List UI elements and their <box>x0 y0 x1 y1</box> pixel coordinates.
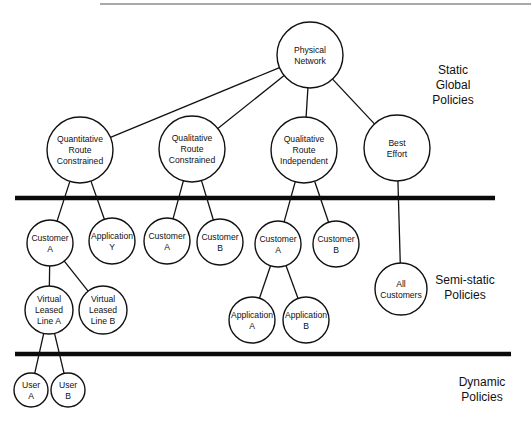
node-label: Line A <box>37 316 61 326</box>
node-label: A <box>47 244 53 254</box>
node-label: B <box>65 391 71 401</box>
edge-qrc-customer-a-to-virtual-leased-line-b <box>64 261 88 291</box>
node-label: B <box>303 321 309 331</box>
node-application-b: ApplicationB <box>283 297 329 343</box>
edge-qualitative-route-independent-to-qli-customer-b <box>315 181 329 222</box>
node-label: Virtual <box>91 294 115 304</box>
node-best-effort: BestEffort <box>364 115 430 181</box>
layer-label-dynamic: DynamicPolicies <box>459 375 506 404</box>
node-qrc-application-y: ApplicationY <box>89 218 135 264</box>
node-label: Customer <box>31 233 68 243</box>
node-user-b: UserB <box>51 373 85 407</box>
node-label: Effort <box>387 149 408 159</box>
node-label: A <box>249 321 255 331</box>
node-label: Application <box>91 231 133 241</box>
node-label: Route <box>181 144 204 154</box>
node-label: Application <box>285 310 327 320</box>
node-label: Route <box>69 145 92 155</box>
node-label: Network <box>294 56 326 66</box>
node-label: Qualitative <box>172 133 213 143</box>
node-label: Customer <box>317 234 354 244</box>
node-label: Leased <box>35 305 63 315</box>
node-qlc-customer-a: CustomerA <box>144 218 190 264</box>
policy-hierarchy-diagram: PhysicalNetworkQuantitativeRouteConstrai… <box>0 0 531 421</box>
node-label: Constrained <box>57 156 104 166</box>
node-label: A <box>275 245 281 255</box>
node-label: Physical <box>294 45 326 55</box>
node-label: Customers <box>380 290 422 300</box>
node-physical-network: PhysicalNetwork <box>277 22 343 88</box>
tree-nodes: PhysicalNetworkQuantitativeRouteConstrai… <box>14 22 430 407</box>
node-label: Leased <box>89 305 117 315</box>
node-label: Line B <box>91 316 116 326</box>
layer-label-line: Policies <box>444 288 485 302</box>
node-virtual-leased-line-a: VirtualLeasedLine A <box>25 286 73 334</box>
node-quantitative-route-constrained: QuantitativeRouteConstrained <box>47 117 113 183</box>
edge-physical-network-to-best-effort <box>333 79 375 124</box>
edge-qli-customer-a-to-application-a <box>259 266 270 298</box>
edge-best-effort-to-all-customers <box>398 181 400 263</box>
node-label: A <box>164 242 170 252</box>
node-label: Best <box>388 138 406 148</box>
edge-physical-network-to-qualitative-route-constrained <box>218 76 284 129</box>
node-label: A <box>28 391 34 401</box>
node-qrc-customer-a: CustomerA <box>27 220 73 266</box>
node-label: Y <box>109 242 115 252</box>
node-label: Quantitative <box>57 134 103 144</box>
node-user-a: UserA <box>14 373 48 407</box>
node-label: Route <box>293 145 316 155</box>
node-qlc-customer-b: CustomerB <box>197 219 243 265</box>
node-label: Independent <box>280 156 328 166</box>
node-label: User <box>22 380 40 390</box>
layer-label-line: Dynamic <box>459 375 506 389</box>
node-qli-customer-b: CustomerB <box>313 221 359 267</box>
node-qli-customer-a: CustomerA <box>255 221 301 267</box>
node-label: Customer <box>259 234 296 244</box>
layer-label-line: Semi-static <box>435 273 494 287</box>
node-label: Customer <box>148 231 185 241</box>
node-all-customers: AllCustomers <box>375 263 427 315</box>
edge-quantitative-route-constrained-to-qrc-customer-a <box>57 181 70 221</box>
layer-label-line: Policies <box>432 93 473 107</box>
layer-label-semi-static: Semi-staticPolicies <box>435 273 494 302</box>
edge-qli-customer-a-to-application-b <box>286 266 298 299</box>
node-label: All <box>396 279 406 289</box>
layer-label-line: Global <box>436 78 471 92</box>
node-application-a: ApplicationA <box>229 297 275 343</box>
node-label: B <box>217 243 223 253</box>
node-label: Constrained <box>169 155 216 165</box>
edge-qualitative-route-independent-to-qli-customer-a <box>284 182 295 222</box>
node-label: Application <box>231 310 273 320</box>
node-label: User <box>59 380 77 390</box>
edge-physical-network-to-qualitative-route-independent <box>306 88 308 117</box>
node-qualitative-route-independent: QualitativeRouteIndependent <box>271 117 337 183</box>
node-qualitative-route-constrained: QualitativeRouteConstrained <box>159 116 225 182</box>
node-label: B <box>333 245 339 255</box>
node-label: Virtual <box>37 294 61 304</box>
layer-label-static: StaticGlobalPolicies <box>432 63 473 107</box>
node-label: Qualitative <box>284 134 325 144</box>
node-label: Customer <box>201 232 238 242</box>
node-virtual-leased-line-b: VirtualLeasedLine B <box>79 286 127 334</box>
layer-label-line: Policies <box>461 390 502 404</box>
layer-label-line: Static <box>438 63 468 77</box>
edge-qualitative-route-constrained-to-qlc-customer-b <box>202 181 214 220</box>
